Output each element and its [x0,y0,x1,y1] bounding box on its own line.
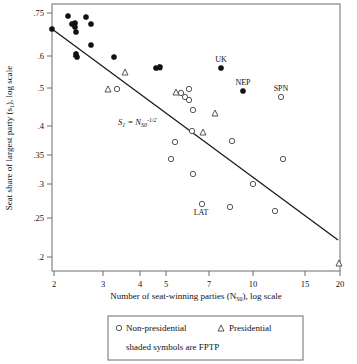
data-points-open-triangle [105,69,342,266]
y-tick-label: .3 [38,179,44,189]
data-point [278,94,283,99]
data-point [114,86,119,91]
data-point [280,156,285,161]
legend-label-nonpresidential: Non-presidential [126,323,187,333]
y-tick-label: .4 [38,121,45,131]
data-point [172,139,177,144]
data-point [218,65,223,70]
y-tick-label: .5 [38,83,44,93]
data-point [212,110,218,116]
data-point [111,54,116,59]
data-point [73,29,78,34]
y-axis-ticks [47,13,52,257]
data-point [122,69,128,75]
legend-note: shaded symbols are FPTP [126,342,219,352]
scatter-plot-figure: .75 .6 .5 .4 .35 .3 .25 .2 2 3 4 5 7 10 … [0,0,357,364]
fit-formula-annotation: S1 = NS0-1/2 [118,117,157,128]
x-tick-label: 3 [101,279,105,289]
legend-circle-icon [116,325,121,330]
y-tick-label: .2 [38,252,44,262]
point-label-spn: SPN [274,84,289,93]
data-point [65,13,70,18]
data-point [88,42,93,47]
data-point [49,26,54,31]
data-point [105,86,111,92]
point-label-lat: LAT [194,208,209,217]
data-points-open-circle [114,86,285,213]
x-tick-label: 2 [52,279,56,289]
data-point [186,97,191,102]
chart-svg: .75 .6 .5 .4 .35 .3 .25 .2 2 3 4 5 7 10 … [0,0,357,364]
legend-label-presidential: Presidential [229,323,272,333]
y-tick-label: .35 [33,150,44,160]
data-point [83,14,88,19]
data-point [227,204,232,209]
data-points-filled-circle [49,13,245,93]
data-point [186,86,191,91]
x-tick-label: 10 [249,279,258,289]
legend-triangle-icon [218,325,224,331]
data-point [240,88,245,93]
data-point [336,260,342,266]
y-axis-title: Seat share of largest party (s1), log sc… [4,66,15,210]
data-point [72,24,77,29]
data-point [168,156,173,161]
y-axis-tick-labels: .75 .6 .5 .4 .35 .3 .25 .2 [33,8,44,262]
data-point [250,181,255,186]
x-axis-title: Number of seat-winning parties (NS0), lo… [110,291,282,302]
x-tick-label: 7 [207,279,211,289]
y-tick-label: .25 [33,213,44,223]
data-point [190,171,195,176]
x-axis-ticks [54,271,340,276]
data-point [88,21,93,26]
plot-frame [52,4,340,271]
data-point [229,138,234,143]
point-label-uk: UK [215,55,227,64]
data-point [190,107,195,112]
data-point [199,201,204,206]
x-tick-label: 15 [301,279,310,289]
data-point [272,208,277,213]
x-tick-label: 4 [138,279,143,289]
data-point [189,128,194,133]
x-axis-tick-labels: 2 3 4 5 7 10 15 20 [52,279,344,289]
data-point [200,129,206,135]
x-tick-label: 20 [336,279,345,289]
y-tick-label: .6 [38,51,44,61]
point-label-nep: NEP [235,78,251,87]
x-tick-label: 5 [164,279,168,289]
y-tick-label: .75 [33,8,44,18]
